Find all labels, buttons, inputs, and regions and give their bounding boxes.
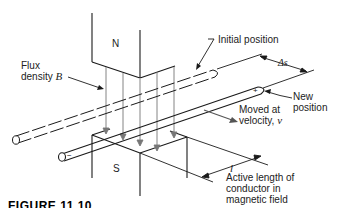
north-pole-label: N (112, 38, 119, 49)
initial-position-leader (198, 39, 214, 66)
active-length-label: Active length of conductor in magnetic f… (226, 172, 294, 205)
delta-s-label: Δs (278, 57, 288, 68)
active-length-line2: conductor in (226, 183, 294, 194)
active-length-line3: magnetic field (226, 194, 294, 205)
new-position-leader (268, 92, 292, 98)
delta-s-dimension (217, 54, 314, 88)
minus-marker: − (67, 151, 72, 160)
flux-label-density: density (21, 71, 53, 82)
velocity-symbol-v: v (277, 114, 282, 126)
conductor-new (59, 87, 264, 161)
south-pole-label: S (113, 163, 120, 174)
active-length-line1: Active length of (226, 172, 294, 183)
velocity-label: Moved at velocity, v (239, 104, 282, 126)
velocity-text: velocity, (239, 115, 274, 126)
north-magnet (92, 13, 175, 78)
flux-arrowhead (97, 85, 104, 90)
new-position-label: New position (293, 91, 327, 113)
velocity-line2: velocity, v (239, 115, 282, 126)
flux-density-label: Flux density B (21, 60, 62, 82)
velocity-arrow (204, 110, 232, 120)
flux-lines (103, 67, 177, 151)
velocity-line1: Moved at (239, 104, 282, 115)
new-position-line1: New (293, 91, 327, 102)
initial-position-label: Initial position (218, 34, 279, 45)
plus-marker: + (253, 86, 258, 95)
figure-caption: FIGURE 11.10 (8, 199, 92, 208)
flux-leader (68, 77, 100, 88)
new-position-line2: position (293, 102, 327, 113)
initial-position-arrowhead (196, 63, 201, 70)
flux-symbol-b: B (55, 70, 62, 82)
new-position-arrowhead (264, 89, 271, 94)
flux-label-line2: density B (21, 71, 62, 82)
